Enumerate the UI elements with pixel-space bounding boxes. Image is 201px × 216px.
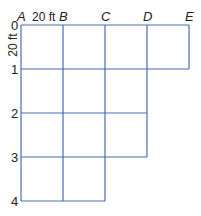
column-label-e: E <box>185 10 194 23</box>
horizontal-scale-label: 20 ft <box>32 11 55 23</box>
column-label-b: B <box>59 10 68 23</box>
row-label-2: 2 <box>11 107 18 120</box>
row-label-0: 0 <box>11 19 18 32</box>
row-label-4: 4 <box>11 195 18 208</box>
column-label-d: D <box>143 10 152 23</box>
row-label-1: 1 <box>11 63 18 76</box>
row-label-3: 3 <box>11 151 18 164</box>
grid-lines <box>0 0 201 216</box>
grid-diagram: A 20 ft B C D E 0 20 ft 1 2 3 4 <box>0 0 201 216</box>
vertical-scale-label: 20 ft <box>7 33 19 56</box>
column-label-c: C <box>101 10 110 23</box>
column-label-a: A <box>17 10 26 23</box>
